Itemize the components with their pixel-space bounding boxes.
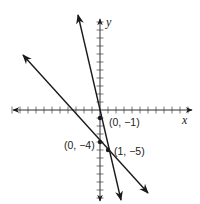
point-label-0-neg4: (0, −4) (64, 139, 95, 151)
point-label-0-neg1: (0, −1) (109, 116, 140, 128)
x-axis-label: x (181, 113, 188, 127)
point-1-neg5 (106, 148, 110, 152)
point-0-neg1 (98, 116, 102, 120)
point-0-neg4 (98, 140, 102, 144)
point-label-1-neg5: (1, −5) (114, 145, 145, 157)
y-axis-label: y (105, 15, 112, 29)
coordinate-plane: (0, −1) (0, −4) (1, −5) x y (0, 0, 200, 204)
